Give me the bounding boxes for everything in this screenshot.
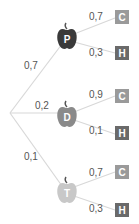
apple-node-p: P	[57, 23, 76, 49]
apple-node-t: T	[57, 177, 76, 203]
svg-text:H: H	[118, 48, 125, 59]
prob-t-c: 0,7	[89, 167, 103, 178]
leaf-p-c: C	[115, 10, 129, 24]
leaf-p-h: H	[115, 46, 129, 60]
svg-text:T: T	[64, 188, 70, 199]
branch-line-t	[10, 113, 62, 186]
probability-tree: 0,7 0,2 0,1 P D T 0,7 0,3 0,9 0,1 0,7 0,…	[0, 0, 139, 224]
leaf-d-h: H	[115, 126, 129, 140]
prob-d-c: 0,9	[89, 89, 103, 100]
leaf-d-c: C	[115, 89, 129, 103]
svg-text:H: H	[118, 128, 125, 139]
apple-stem-icon	[65, 177, 67, 183]
svg-text:C: C	[118, 12, 125, 23]
leaf-t-h: H	[115, 203, 129, 217]
svg-text:D: D	[63, 112, 70, 123]
leaf-t-c: C	[115, 165, 129, 179]
svg-text:P: P	[64, 34, 71, 45]
prob-p-c: 0,7	[89, 11, 103, 22]
prob-p: 0,7	[24, 60, 38, 71]
svg-text:H: H	[118, 205, 125, 216]
svg-text:C: C	[118, 167, 125, 178]
prob-t: 0,1	[24, 151, 38, 162]
prob-p-h: 0,3	[89, 47, 103, 58]
svg-text:C: C	[118, 91, 125, 102]
prob-t-h: 0,3	[89, 203, 103, 214]
apple-stem-icon	[65, 101, 67, 107]
prob-d: 0,2	[35, 100, 49, 111]
apple-node-d: D	[57, 101, 76, 127]
prob-d-h: 0,1	[89, 125, 103, 136]
apple-stem-icon	[65, 23, 67, 29]
